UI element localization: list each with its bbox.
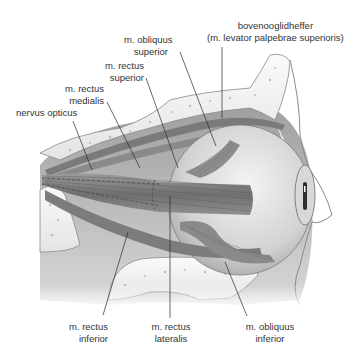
label-rectus-medialis: m. rectus medialis <box>60 83 104 107</box>
label-obliquus-inferior: m. obliquus inferior <box>245 321 295 345</box>
label-obliquus-superior: m. obliquus superior <box>124 34 168 58</box>
label-rectus-lateralis: m. rectus lateralis <box>150 321 192 345</box>
anatomy-illustration <box>0 0 350 357</box>
label-rectus-superior: m. rectus superior <box>100 60 144 84</box>
label-levator-palpebrae: bovenooglidheffer (m. levator palpebrae … <box>207 20 344 44</box>
eye-muscle-diagram: bovenooglidheffer (m. levator palpebrae … <box>0 0 350 357</box>
label-rectus-inferior: m. rectus inferior <box>68 321 108 345</box>
label-nervus-opticus: nervus opticus <box>16 107 77 119</box>
